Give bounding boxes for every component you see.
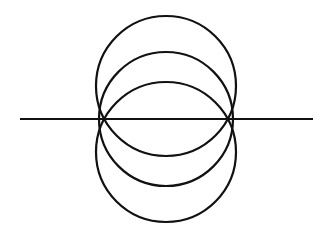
circle-pencil-diagram	[0, 0, 329, 233]
upper-circle	[96, 16, 236, 156]
lower-circle	[96, 82, 236, 222]
